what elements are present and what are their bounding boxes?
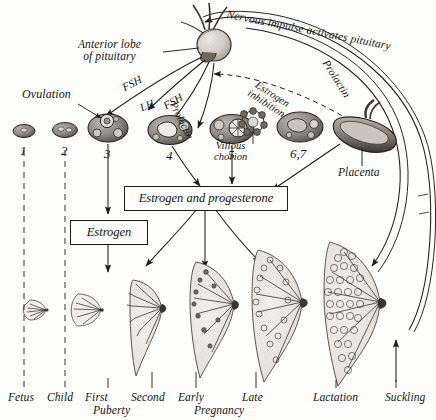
ovary-number-4: 4 [166,148,173,164]
ovary-stage-1 [13,125,35,138]
breast-early-pregnancy [252,250,308,382]
ovulation-leader [78,104,101,118]
ovary-stage-3 [88,114,128,142]
stage-label-late: Late [242,391,263,403]
breast-lactation [324,242,386,386]
ovulation-label: Ovulation [22,88,71,101]
stage-label-lactation: Lactation [313,391,358,403]
prolactin-arrow [198,63,214,128]
stage4-to-box-arrow [172,146,200,186]
ovary-number-2: 2 [61,143,68,159]
stage-label-child: Child [47,391,73,403]
pituitary-leader-line [163,48,199,52]
stage-label-suckling: Suckling [385,391,425,403]
ovary-number-67: 6,7 [290,146,306,162]
stage-label-second: Second [131,391,165,403]
stage-label-first: First [85,391,108,403]
breast-second-puberty [190,262,239,378]
estrogen-box: Estrogen [70,220,148,245]
placenta-illustration [333,100,396,166]
breast-fetus [23,300,48,320]
pituitary-gland [181,3,231,62]
pituitary-label: Anterior lobe of pituitary [78,38,141,62]
box-to-second-puberty [146,209,197,266]
ovary-stage-2 [53,123,78,138]
ovary-number-1: 1 [20,143,27,159]
ovary-stage-67 [277,112,323,142]
stage-label-early: Early [178,391,204,403]
pituitary-label-line2: of pituitary [83,50,136,62]
pituitary-label-line1: Anterior lobe [78,38,141,50]
breast-first-puberty [127,280,166,376]
breast-child [71,294,104,326]
box-to-late-pregnancy [215,209,260,262]
placenta-label: Placenta [338,166,380,178]
ovary-number-3: 3 [104,146,111,162]
stage-label-puberty: Puberty [93,404,130,416]
ovary-number-5: 5 [228,147,235,163]
stage-label-fetus: Fetus [8,391,34,403]
estrogen-progesterone-box: Estrogen and progesterone [124,186,288,211]
stage-label-pregnancy: Pregnancy [194,404,244,416]
diagram-canvas: Anterior lobe of pituitary Ovulation FSH… [0,0,436,420]
